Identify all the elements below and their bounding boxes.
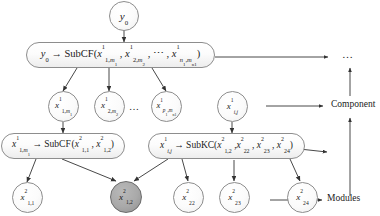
node-x2-22[interactable]: x222 <box>173 182 204 213</box>
node-x2-23[interactable]: x223 <box>219 182 250 213</box>
capsule-level3-subcf[interactable]: x11,m1 → SubCF (x21,1 , x21,2) <box>1 133 125 159</box>
diagram-canvas: y0 y0 → SubCF(x11,m1 , x12,m2 , ⋯ , x1n1… <box>0 0 380 216</box>
capsule-level1-label: y0 → SubCF(x11,m1 , x12,m2 , ⋯ , x1n1,mn… <box>41 49 200 61</box>
edge-l1-to-n3 <box>152 68 166 91</box>
node-x2-22-label: x222 <box>182 193 194 202</box>
side-label-component: Component <box>331 99 375 109</box>
edge-l3a-to-leaf1 <box>27 159 36 182</box>
capsule-level1-subcf[interactable]: y0 → SubCF(x11,m1 , x12,m2 , ⋯ , x1n1,mn… <box>26 42 215 68</box>
node-x2-11-label: x21,1 <box>21 193 35 202</box>
edge-l3b-to-leaf5 <box>290 159 300 181</box>
node-x1-2m2-label: x12,m2 <box>101 101 118 112</box>
node-x2-11[interactable]: x21,1 <box>12 182 43 213</box>
node-x2-23-label: x223 <box>228 193 240 202</box>
node-x2-24-label: x224 <box>296 193 308 202</box>
capsule-level3-subkc[interactable]: x1i,j → SubKC(x21,2 ,x222 , x223 , x224) <box>148 133 305 159</box>
capsule-level3-subcf-label: x11,m1 → SubCF (x21,1 , x21,2) <box>12 140 114 151</box>
node-x1-2m2[interactable]: x12,m2 <box>94 91 125 122</box>
edge-l3b-to-leaf3 <box>182 159 188 181</box>
node-x2-24[interactable]: x224 <box>287 182 318 213</box>
side-label-top-ellipsis: … <box>342 48 354 60</box>
side-label-modules: Modules <box>327 193 360 203</box>
edge-l1-to-n1 <box>63 68 77 91</box>
node-x2-12-highlighted[interactable]: x21,2 <box>110 181 142 213</box>
node-x1-1m1-label: x11,m1 <box>55 101 72 112</box>
node-root-label: y0 <box>120 11 128 22</box>
edge-l3a-to-leaf2 <box>62 159 116 181</box>
node-x2-12-label: x21,2 <box>119 193 133 202</box>
node-x1-ij[interactable]: x1i,j <box>217 91 248 122</box>
capsule-level3-subkc-label: x1i,j → SubKC(x21,2 ,x222 , x223 , x224) <box>160 141 293 151</box>
node-x1-p1mn1-label: x1p1,mn1 <box>156 101 176 112</box>
node-x1-1m1[interactable]: x11,m1 <box>48 91 79 122</box>
edge-l3b-to-leaf2 <box>134 159 168 181</box>
node-root[interactable]: y0 <box>109 1 139 31</box>
node-x1-p1mn1[interactable]: x1p1,mn1 <box>151 91 182 122</box>
level2-ellipsis: … <box>129 101 140 112</box>
node-x1-ij-label: x1i,j <box>227 102 238 111</box>
